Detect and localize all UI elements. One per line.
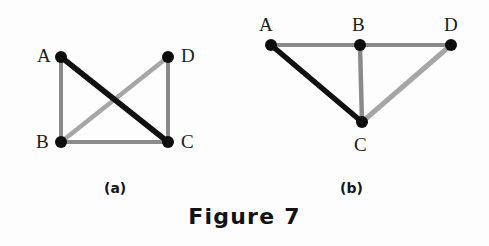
node-label-b-A: A xyxy=(259,15,273,34)
graph-panel-a xyxy=(55,51,174,148)
figure-caption: Figure 7 xyxy=(0,206,489,228)
node-a-B xyxy=(55,136,67,148)
node-b-B xyxy=(354,39,366,51)
node-label-b-D: D xyxy=(444,15,458,34)
node-label-a-A: A xyxy=(37,46,51,65)
node-a-D xyxy=(162,51,174,63)
edge-b-AC xyxy=(271,45,362,122)
figure-7: ADBC(a)ABDC(b) Figure 7 xyxy=(0,0,489,246)
node-b-C xyxy=(356,116,368,128)
node-b-D xyxy=(445,39,457,51)
node-b-A xyxy=(265,39,277,51)
edge-b-BC xyxy=(360,45,362,122)
node-a-C xyxy=(162,136,174,148)
node-label-a-C: C xyxy=(181,132,194,151)
edge-b-CD xyxy=(362,45,451,122)
node-a-A xyxy=(55,51,67,63)
node-label-a-D: D xyxy=(181,46,195,65)
node-label-b-B: B xyxy=(352,15,365,34)
panel-label-b: (b) xyxy=(340,181,363,195)
node-label-b-C: C xyxy=(354,135,367,154)
graph-panel-b xyxy=(265,39,457,128)
panel-label-a: (a) xyxy=(104,181,126,195)
node-label-a-B: B xyxy=(36,132,49,151)
